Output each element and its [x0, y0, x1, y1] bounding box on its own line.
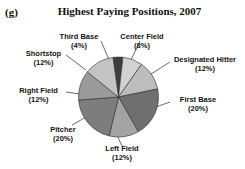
slice-label-shortstop-text: Shortstop	[26, 49, 61, 58]
slice-label-right-field: Right Field (12%)	[11, 87, 66, 104]
slice-label-pitcher: Pitcher (20%)	[41, 126, 85, 143]
pie-slices	[79, 57, 159, 137]
slice-label-left-field: Left Field (12%)	[95, 145, 149, 162]
slice-label-designated-hitter: Designated Hitter (12%)	[167, 56, 243, 73]
slice-label-first-base-pct: (20%)	[171, 105, 225, 114]
slice-label-left-field-pct: (12%)	[95, 154, 149, 163]
slice-label-shortstop: Shortstop (12%)	[20, 50, 67, 67]
slice-label-third-base-text: Third Base	[60, 32, 99, 41]
slice-label-pitcher-text: Pitcher	[50, 125, 75, 134]
slice-label-right-field-text: Right Field	[19, 86, 58, 95]
slice-label-first-base: First Base (20%)	[171, 96, 225, 113]
slice-label-third-base: Third Base (4%)	[52, 33, 106, 50]
slice-label-designated-hitter-text: Designated Hitter	[174, 55, 236, 64]
slice-label-left-field-text: Left Field	[105, 144, 138, 153]
slice-label-shortstop-pct: (12%)	[20, 59, 67, 68]
slice-label-first-base-text: First Base	[180, 95, 216, 104]
slice-label-center-field-pct: (8%)	[113, 42, 171, 51]
slice-label-designated-hitter-pct: (12%)	[167, 65, 243, 74]
slice-label-right-field-pct: (12%)	[11, 96, 66, 105]
slice-label-pitcher-pct: (20%)	[41, 135, 85, 144]
slice-label-center-field: Center Field (8%)	[113, 33, 171, 50]
figure-container: (g) Highest Paying Positions, 2007 Third…	[0, 0, 245, 169]
slice-label-center-field-text: Center Field	[120, 32, 163, 41]
